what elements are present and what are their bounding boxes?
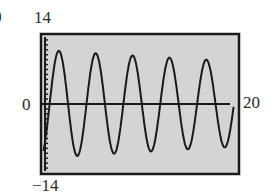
calculator-graph — [0, 0, 265, 194]
